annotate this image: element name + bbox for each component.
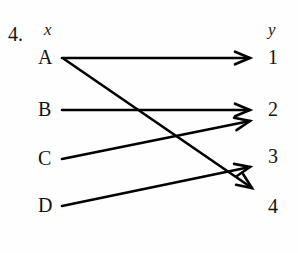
domain-node-b: B [38, 99, 51, 119]
arrow-a-to-1 [62, 52, 250, 65]
range-node-1: 1 [268, 47, 278, 67]
arrow-c-to-2 [62, 118, 250, 159]
arrow-b-to-2 [62, 104, 250, 117]
arrow-d-to-3 [62, 164, 250, 206]
range-node-4: 4 [268, 196, 278, 216]
arrow-layer [62, 52, 252, 206]
worksheet-page: 4. x y A B C D 1 2 3 4 [0, 0, 298, 253]
column-header-y: y [268, 21, 276, 38]
range-node-2: 2 [268, 99, 278, 119]
domain-node-d: D [38, 195, 52, 215]
column-header-x: x [44, 21, 52, 38]
domain-node-a: A [38, 47, 52, 67]
problem-number: 4. [8, 24, 23, 44]
domain-node-c: C [38, 148, 51, 168]
arrow-c-to-2-shaft [62, 121, 250, 159]
arrow-a-to-4 [64, 59, 252, 188]
arrow-a-to-4-shaft [64, 59, 252, 188]
arrow-d-to-3-shaft [62, 167, 250, 206]
range-node-3: 3 [268, 146, 278, 166]
